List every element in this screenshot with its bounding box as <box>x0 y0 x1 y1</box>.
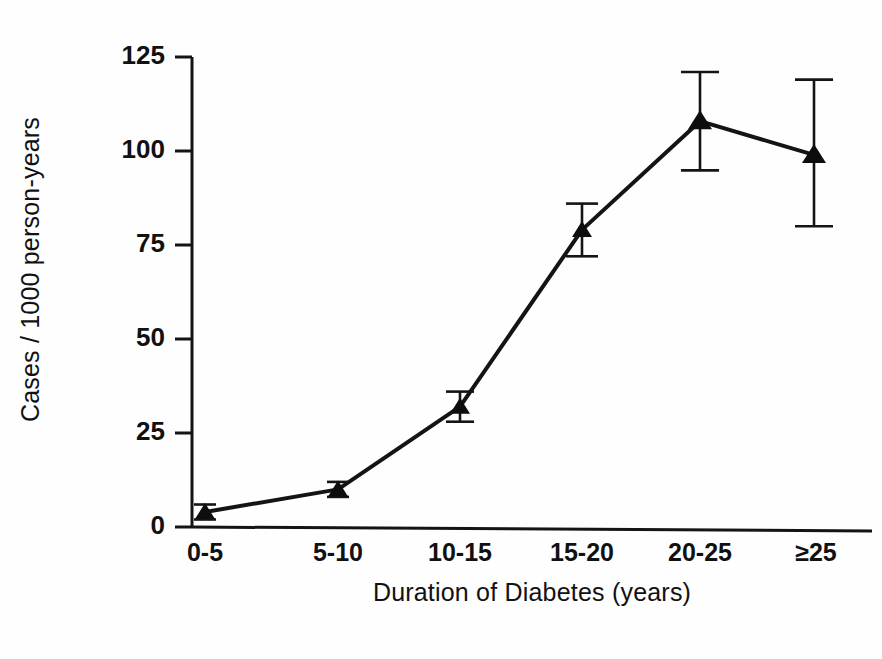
y-tick-label-100: 100 <box>85 134 165 165</box>
x-tick-label-ge25: ≥25 <box>746 538 882 567</box>
y-tick-label-0: 0 <box>85 510 165 541</box>
y-tick-label-75: 75 <box>85 228 165 259</box>
x-tick-label-0-5: 0-5 <box>135 538 275 567</box>
axis-lines <box>192 57 872 531</box>
y-tick-label-125: 125 <box>85 40 165 71</box>
y-tick-label-25: 25 <box>85 416 165 447</box>
y-tick-label-50: 50 <box>85 322 165 353</box>
y-axis-title: Cases / 1000 person-years <box>16 55 45 485</box>
data-point-marker <box>450 398 470 414</box>
series-line <box>205 121 814 512</box>
y-axis-title-wrapper: Cases / 1000 person-years <box>0 0 60 540</box>
x-axis-title: Duration of Diabetes (years) <box>192 578 872 607</box>
series-markers <box>195 110 826 519</box>
error-bars <box>194 72 833 520</box>
x-tick-label-5-10: 5-10 <box>268 538 408 567</box>
data-point-marker <box>688 110 712 129</box>
y-tick-marks <box>175 57 192 527</box>
x-tick-label-10-15: 10-15 <box>390 538 530 567</box>
chart-figure: 125 100 75 50 25 0 0-5 5-10 10-15 15-20 … <box>0 0 882 659</box>
